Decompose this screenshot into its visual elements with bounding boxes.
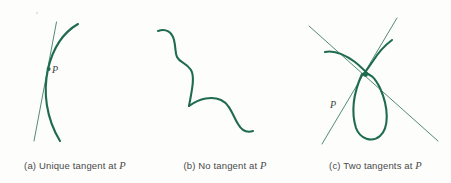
panel-b-graphic [150, 0, 300, 155]
panel-b-no-tangent: P (b) No tangent at P [150, 0, 300, 183]
curve-c-loop [354, 74, 387, 140]
point-label-a: P [52, 64, 58, 75]
curve-b-lower [189, 98, 253, 132]
caption-b-point: P [260, 160, 267, 171]
panel-c-graphic [300, 0, 451, 155]
caption-c: (c) Two tangents at P [300, 160, 451, 171]
panel-a-unique-tangent: P (a) Unique tangent at P [0, 0, 150, 183]
caption-b-text: (b) No tangent at [183, 160, 257, 171]
curve-c-branch-left [325, 51, 368, 74]
caption-c-point: P [415, 160, 422, 171]
caption-c-text: (c) Two tangents at [329, 160, 412, 171]
caption-a-text: (a) Unique tangent at [24, 160, 116, 171]
curve-c-branch-right [363, 40, 392, 75]
curve-b-upper [158, 30, 193, 106]
tangent-line-c-1 [309, 26, 438, 141]
caption-b: (b) No tangent at P [150, 160, 300, 171]
tangency-point-a [47, 67, 51, 71]
crossing-point-c [363, 72, 368, 77]
panel-a-graphic [0, 0, 150, 155]
caption-a-point: P [119, 160, 126, 171]
tangent-lines-figure: P (a) Unique tangent at P P (b) No tange… [0, 0, 451, 183]
panel-c-two-tangents: P (c) Two tangents at P [300, 0, 451, 183]
curve-a [46, 24, 78, 141]
caption-a: (a) Unique tangent at P [0, 160, 150, 171]
